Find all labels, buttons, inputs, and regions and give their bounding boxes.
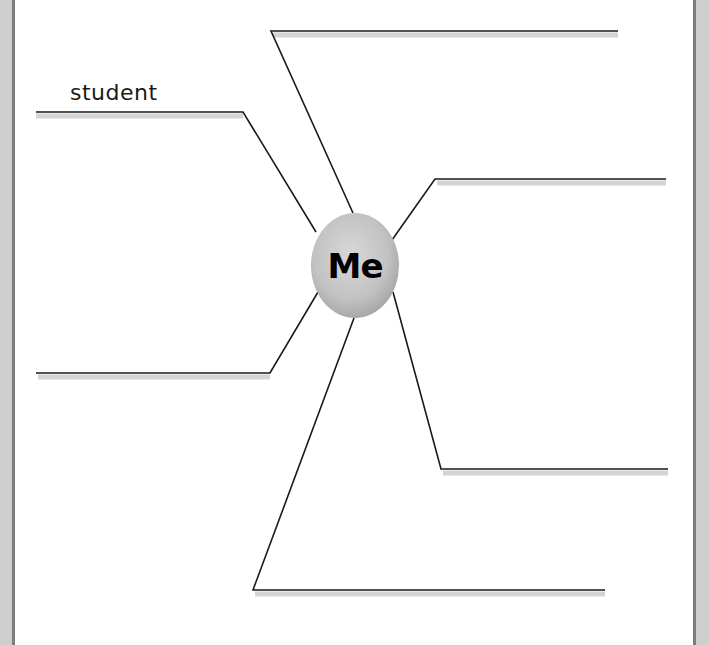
branch-label-upper-left: student bbox=[70, 80, 158, 105]
answer-field-lower-left[interactable] bbox=[40, 346, 266, 372]
branch-upper-right bbox=[392, 179, 666, 240]
answer-field-bottom[interactable] bbox=[258, 563, 602, 589]
answer-field-top[interactable] bbox=[275, 4, 615, 30]
center-node-label: Me bbox=[311, 213, 399, 318]
branch-top bbox=[271, 31, 618, 213]
branch-upper-left bbox=[36, 112, 316, 232]
answer-field-lower-right[interactable] bbox=[446, 442, 664, 468]
answer-field-upper-right[interactable] bbox=[440, 152, 662, 178]
